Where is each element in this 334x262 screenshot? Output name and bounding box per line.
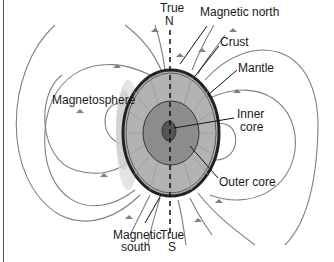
label-outer-core: Outer core xyxy=(219,175,276,189)
label-true-north-line1: True xyxy=(160,1,185,15)
label-mantle: Mantle xyxy=(238,61,274,75)
label-inner-core-line2: core xyxy=(240,120,264,134)
label-true-north-line2: N xyxy=(165,14,174,28)
inner-core xyxy=(162,121,176,141)
earth-magnetic-field-diagram: True N Magnetic north Crust Mantle Magne… xyxy=(0,0,334,262)
label-inner-core-line1: Inner xyxy=(237,107,264,121)
earth-cross-section xyxy=(123,70,219,196)
label-true-south-line2: S xyxy=(168,240,176,254)
label-magnetic-north: Magnetic north xyxy=(200,5,279,19)
label-magnetic-south-line2: south xyxy=(121,240,150,254)
label-crust: Crust xyxy=(220,35,249,49)
label-magnetosphere: Magnetosphere xyxy=(52,93,136,107)
